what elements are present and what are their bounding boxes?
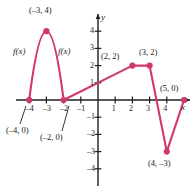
x-axis-label: x (181, 103, 185, 112)
x-tick-label: –3 (43, 105, 51, 113)
y-tick-label: 3 (90, 44, 94, 52)
point-label-2-2: (2, 2) (101, 52, 119, 61)
y-axis-arrow (96, 14, 101, 19)
x-tick-label: 3 (146, 105, 150, 113)
function-annotation-left: f(x) (13, 47, 26, 56)
point-label-3-2: (3, 2) (139, 48, 157, 57)
data-point (43, 28, 49, 34)
point-label-neg2-0: (–2, 0) (40, 133, 63, 142)
data-point (129, 63, 135, 69)
x-tick-label: 4 (163, 105, 167, 113)
x-tick-label: –1 (77, 105, 85, 113)
y-tick-label: –2 (87, 130, 95, 138)
x-tick-label: –2 (60, 105, 68, 113)
y-tick-label: 2 (90, 62, 94, 70)
y-tick-label: 1 (90, 79, 94, 87)
y-tick-label: –1 (87, 113, 95, 121)
x-tick-label: 1 (112, 105, 116, 113)
y-tick-label: –3 (87, 148, 95, 156)
y-tick-label: 4 (90, 27, 94, 35)
data-point (61, 97, 67, 103)
point-label-neg3-4: (–3, 4) (29, 6, 52, 15)
data-point (164, 149, 170, 155)
point-label-4-neg3: (4, –3) (148, 159, 171, 168)
x-tick-label: 2 (129, 105, 133, 113)
x-tick-label: –4 (26, 105, 34, 113)
data-point (147, 63, 153, 69)
graph-figure: y x f(x) f(x) (–3, 4) (–4, 0) (–2, 0) (2… (0, 0, 195, 192)
y-tick-label: –4 (87, 165, 95, 173)
y-axis-label: y (101, 13, 105, 22)
point-label-5-0: (5, 0) (160, 84, 178, 93)
data-point (26, 97, 32, 103)
point-label-neg4-0: (–4, 0) (6, 126, 29, 135)
function-annotation-right: f(x) (58, 47, 71, 56)
